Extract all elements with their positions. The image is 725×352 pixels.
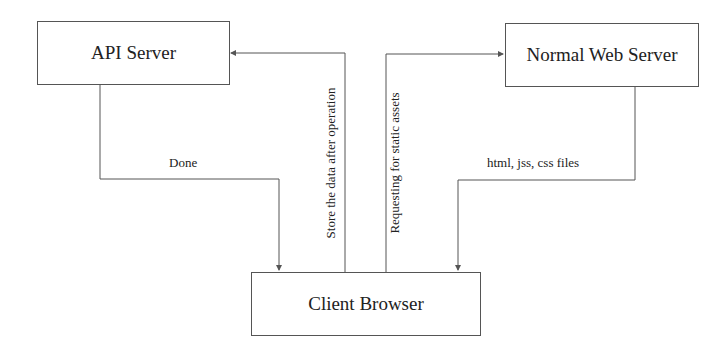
edge-done — [100, 84, 279, 270]
edge-label-requesting: Requesting for static assets — [387, 73, 403, 253]
client-browser-label: Client Browser — [308, 293, 424, 315]
edge-label-files: html, jss, css files — [487, 155, 579, 171]
api-server-label: API Server — [91, 42, 176, 64]
edge-label-store: Store the data after operation — [323, 71, 339, 255]
edge-requesting — [386, 54, 503, 272]
client-browser-node: Client Browser — [251, 272, 481, 336]
api-server-node: API Server — [37, 21, 230, 85]
edge-label-done: Done — [169, 155, 197, 171]
normal-web-server-node: Normal Web Server — [505, 23, 699, 87]
edge-files — [458, 86, 635, 270]
normal-web-server-label: Normal Web Server — [526, 44, 677, 66]
